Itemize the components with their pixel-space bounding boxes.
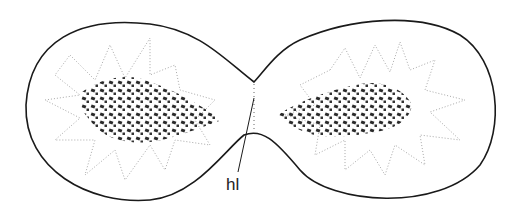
- label-hl: hl: [226, 175, 239, 194]
- left-nucleus-chromatin: [80, 77, 222, 142]
- cell-division-diagram: hl: [0, 0, 513, 215]
- hl-leader-line: [238, 98, 254, 172]
- right-nucleus-chromatin: [278, 83, 412, 137]
